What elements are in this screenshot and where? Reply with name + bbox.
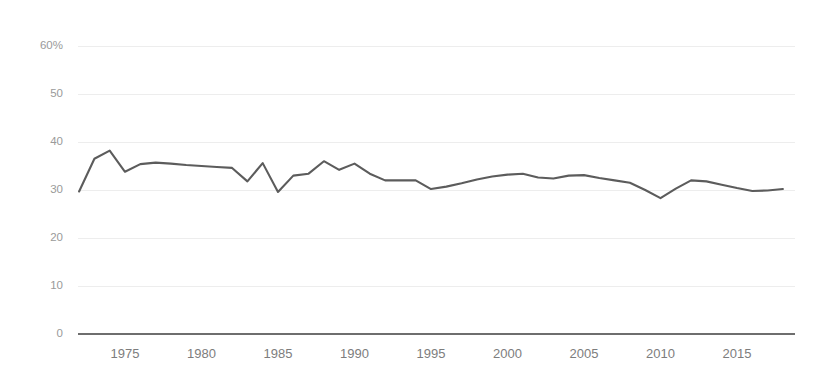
y-axis-tick-label: 10 (50, 279, 63, 291)
data-series-line (79, 151, 783, 199)
x-axis-tick-label: 1980 (187, 346, 216, 361)
y-axis-tick-label: 40 (50, 135, 63, 147)
x-axis-tick-label: 2010 (646, 346, 675, 361)
y-axis-tick-label: 20 (50, 231, 63, 243)
x-axis-tick-label: 2015 (723, 346, 752, 361)
x-axis-tick-label: 1995 (417, 346, 446, 361)
x-axis-tick-labels: 197519801985199019952000200520102015 (111, 346, 752, 361)
y-axis-tick-label: 60% (40, 39, 63, 51)
x-axis-tick-label: 1985 (264, 346, 293, 361)
y-axis-tick-label: 30 (50, 183, 63, 195)
chart-canvas: 0102030405060% 1975198019851990199520002… (0, 0, 835, 388)
y-axis-tick-label: 50 (50, 87, 63, 99)
y-axis-tick-labels: 0102030405060% (40, 39, 63, 339)
x-axis-tick-label: 2005 (570, 346, 599, 361)
x-axis-tick-label: 1990 (340, 346, 369, 361)
x-axis-tick-label: 2000 (493, 346, 522, 361)
y-axis-tick-label: 0 (57, 327, 63, 339)
x-axis-tick-label: 1975 (111, 346, 140, 361)
line-chart: 0102030405060% 1975198019851990199520002… (0, 0, 835, 388)
